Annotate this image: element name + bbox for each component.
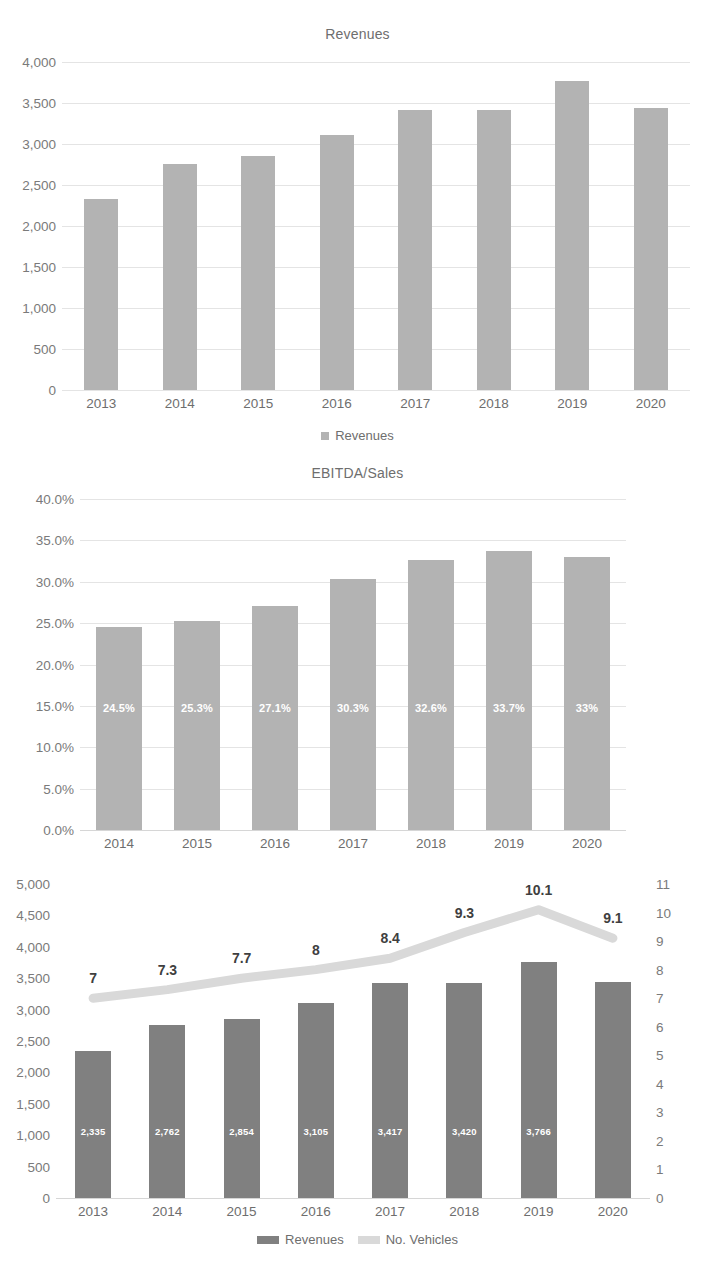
- bar: 27.1%: [252, 606, 298, 830]
- y-axis-right-tick-label: 9: [656, 934, 696, 949]
- gridline: [62, 226, 690, 227]
- bar-data-label: 32.6%: [408, 702, 454, 714]
- x-axis-tick-label: 2014: [80, 836, 158, 851]
- bar: [477, 110, 511, 390]
- legend-swatch-revenues: [321, 432, 329, 440]
- bar: 24.5%: [96, 627, 142, 830]
- y-axis-right-tick-label: 6: [656, 1019, 696, 1034]
- y-axis-revenues: 05001,0001,5002,0002,5003,0003,5004,000: [0, 62, 56, 390]
- x-axis-tick-label: 2016: [279, 1204, 353, 1219]
- y-axis-tick-label: 30.0%: [0, 574, 74, 589]
- x-axis-tick-label: 2017: [353, 1204, 427, 1219]
- bar: [84, 199, 118, 390]
- legend-swatch-no-vehicles: [358, 1236, 380, 1244]
- y-axis-tick-label: 2,000: [0, 1065, 50, 1080]
- ebitda-sales-chart: EBITDA/Sales 24.5%25.3%27.1%30.3%32.6%33…: [0, 455, 715, 860]
- y-axis-tick-label: 2,500: [0, 178, 56, 193]
- y-axis-tick-label: 500: [0, 1159, 50, 1174]
- legend-revenues-vehicles: Revenues No. Vehicles: [0, 1232, 715, 1247]
- line-data-label: 9.1: [603, 910, 622, 926]
- y-axis-tick-label: 40.0%: [0, 492, 74, 507]
- gridline: [62, 144, 690, 145]
- no-vehicles-line: [56, 884, 650, 1198]
- gridline: [62, 267, 690, 268]
- x-axis-tick-label: 2015: [205, 1204, 279, 1219]
- y-axis-tick-label: 0: [0, 383, 56, 398]
- gridline: [62, 103, 690, 104]
- x-axis-tick-label: 2014: [130, 1204, 204, 1219]
- x-axis-tick-label: 2019: [470, 836, 548, 851]
- legend-item-no-vehicles: No. Vehicles: [358, 1232, 458, 1247]
- bar: [398, 110, 432, 390]
- x-axis-tick-label: 2013: [56, 1204, 130, 1219]
- legend-swatch-revenues: [257, 1236, 279, 1244]
- x-axis-tick-label: 2015: [219, 396, 298, 411]
- x-axis-tick-label: 2018: [455, 396, 534, 411]
- y-axis-right-tick-label: 5: [656, 1048, 696, 1063]
- y-axis-right-vehicles: 01234567891011: [656, 884, 696, 1198]
- bar: 33%: [564, 557, 610, 830]
- y-axis-tick-label: 0.0%: [0, 823, 74, 838]
- legend-label-no-vehicles: No. Vehicles: [386, 1232, 458, 1247]
- y-axis-tick-label: 35.0%: [0, 533, 74, 548]
- revenues-chart: Revenues 05001,0001,5002,0002,5003,0003,…: [0, 0, 715, 455]
- y-axis-tick-label: 2,000: [0, 219, 56, 234]
- bar-data-label: 30.3%: [330, 702, 376, 714]
- legend-item-revenues: Revenues: [321, 428, 394, 443]
- plot-area-ebitda-sales: 24.5%25.3%27.1%30.3%32.6%33.7%33%: [80, 499, 626, 830]
- gridline: [62, 308, 690, 309]
- bar-data-label: 27.1%: [252, 702, 298, 714]
- line-data-label: 8: [312, 942, 320, 958]
- line-data-label: 7.7: [232, 950, 251, 966]
- chart-title-revenues: Revenues: [0, 26, 715, 42]
- y-axis-tick-label: 15.0%: [0, 698, 74, 713]
- y-axis-tick-label: 1,000: [0, 301, 56, 316]
- line-data-label: 9.3: [455, 905, 474, 921]
- bar: [241, 156, 275, 390]
- bar-data-label: 25.3%: [174, 702, 220, 714]
- y-axis-tick-label: 3,500: [0, 971, 50, 986]
- line-data-label: 7.3: [158, 962, 177, 978]
- x-axis-tick-label: 2014: [141, 396, 220, 411]
- y-axis-right-tick-label: 1: [656, 1162, 696, 1177]
- bar: [634, 108, 668, 390]
- bar: 30.3%: [330, 579, 376, 830]
- bar: 25.3%: [174, 621, 220, 830]
- x-axis-tick-label: 2020: [548, 836, 626, 851]
- gridline: [80, 499, 626, 500]
- plot-area-revenues-vehicles: 2,3352,7622,8543,1053,4173,4203,76677.37…: [56, 884, 650, 1198]
- x-axis-tick-label: 2016: [236, 836, 314, 851]
- y-axis-tick-label: 3,500: [0, 96, 56, 111]
- y-axis-tick-label: 4,500: [0, 908, 50, 923]
- x-axis-revenues: 20132014201520162017201820192020: [62, 394, 690, 416]
- legend-label-revenues: Revenues: [335, 428, 394, 443]
- y-axis-right-tick-label: 11: [656, 877, 696, 892]
- line-data-label: 8.4: [380, 930, 399, 946]
- x-axis-tick-label: 2019: [533, 396, 612, 411]
- gridline: [80, 540, 626, 541]
- x-axis-tick-label: 2018: [427, 1204, 501, 1219]
- y-axis-tick-label: 0: [0, 1191, 50, 1206]
- x-axis-revenues-vehicles: 20132014201520162017201820192020: [56, 1202, 650, 1224]
- x-axis-tick-label: 2013: [62, 396, 141, 411]
- chart-title-ebitda-sales: EBITDA/Sales: [0, 465, 715, 481]
- y-axis-tick-label: 10.0%: [0, 740, 74, 755]
- y-axis-tick-label: 500: [0, 342, 56, 357]
- y-axis-tick-label: 5,000: [0, 877, 50, 892]
- bar: [555, 81, 589, 390]
- axis-line: [56, 1198, 650, 1199]
- x-axis-tick-label: 2018: [392, 836, 470, 851]
- x-axis-tick-label: 2019: [502, 1204, 576, 1219]
- y-axis-tick-label: 20.0%: [0, 657, 74, 672]
- bar: 32.6%: [408, 560, 454, 830]
- y-axis-left-revenues-vehicles: 05001,0001,5002,0002,5003,0003,5004,0004…: [0, 884, 50, 1198]
- gridline: [62, 349, 690, 350]
- y-axis-right-tick-label: 2: [656, 1133, 696, 1148]
- x-axis-ebitda-sales: 2014201520162017201820192020: [80, 834, 626, 856]
- legend-item-revenues: Revenues: [257, 1232, 344, 1247]
- revenues-vehicles-chart: 2,3352,7622,8543,1053,4173,4203,76677.37…: [0, 860, 715, 1275]
- gridline: [62, 390, 690, 391]
- line-data-label: 7: [89, 970, 97, 986]
- bar: [163, 164, 197, 390]
- y-axis-right-tick-label: 0: [656, 1191, 696, 1206]
